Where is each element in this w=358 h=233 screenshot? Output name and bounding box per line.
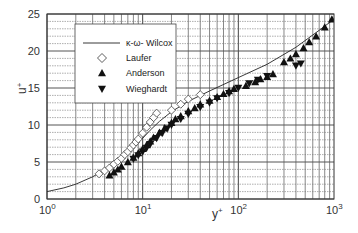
y-tick-label: 10 xyxy=(28,119,40,131)
chart: 0510152025 100101102103 u+ y+ κ-ω- Wilco… xyxy=(0,0,358,233)
legend-label: Wieghardt xyxy=(126,84,168,94)
y-tick-label: 5 xyxy=(34,156,40,168)
legend-label: Anderson xyxy=(126,68,165,78)
y-tick-label: 25 xyxy=(28,8,40,20)
legend: κ-ω- WilcoxLauferAndersonWieghardt xyxy=(75,24,176,103)
y-tick-label: 20 xyxy=(28,45,40,57)
legend-label: Laufer xyxy=(126,53,152,63)
legend-label: κ-ω- Wilcox xyxy=(126,38,173,48)
y-tick-label: 15 xyxy=(28,82,40,94)
